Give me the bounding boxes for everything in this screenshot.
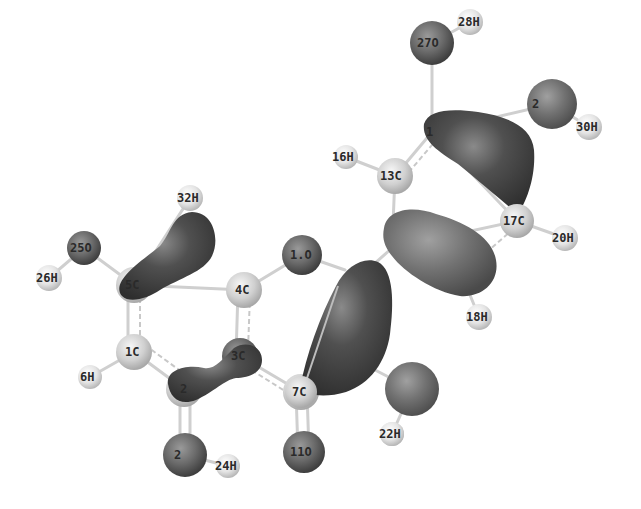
label-16H: 16H [332, 150, 354, 164]
label-3C: 3C [231, 349, 245, 363]
label-15C: 1 [426, 125, 433, 139]
lobe-15C-17C [424, 110, 534, 214]
label-2C: 2 [180, 382, 187, 396]
label-7C: 7C [292, 385, 306, 399]
label-4C: 4C [235, 283, 249, 297]
label-29O: 2 [532, 97, 539, 111]
label-25O: 25O [70, 241, 92, 255]
label-1C: 1C [125, 345, 139, 359]
lobe-8C-7C [300, 260, 392, 395]
lobe-14C-17C [383, 210, 496, 297]
label-32H: 32H [177, 191, 199, 205]
label-30H: 30H [576, 120, 598, 134]
label-24H: 24H [215, 459, 237, 473]
label-22H: 22H [379, 427, 401, 441]
label-6H: 6H [80, 370, 94, 384]
molecular-orbital-diagram: 28H 27O 2 30H 1 16H 13C 17C 20H 18H 32H … [0, 0, 641, 509]
label-28H: 28H [458, 15, 480, 29]
label-18H: 18H [466, 310, 488, 324]
label-17C: 17C [503, 214, 525, 228]
atom-23O[interactable] [163, 433, 207, 477]
label-20H: 20H [552, 231, 574, 245]
lobe-21O [385, 362, 439, 416]
label-13C: 13C [380, 169, 402, 183]
label-27O: 27O [417, 36, 439, 50]
label-11O: 11O [290, 445, 312, 459]
label-10O: 1.O [290, 248, 312, 262]
label-26H: 26H [36, 271, 58, 285]
label-5C: 5C [125, 278, 139, 292]
atoms [36, 9, 602, 478]
bonds [49, 22, 589, 466]
label-23O: 2 [174, 448, 181, 462]
